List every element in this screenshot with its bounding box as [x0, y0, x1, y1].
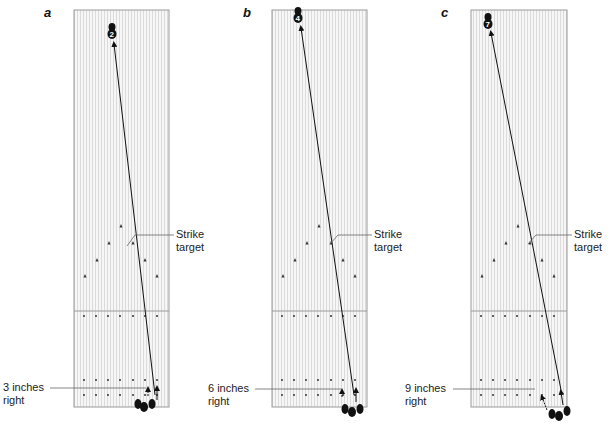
strike-target-label-a-2: target [176, 241, 204, 253]
strike-target-label-b: Strike [374, 228, 402, 240]
bowling-lane-diagram: a 2 St [0, 0, 612, 425]
pin-number-c: 7 [486, 20, 491, 29]
strike-target-label-b-2: target [374, 241, 402, 253]
offset-label-c-2: right [405, 395, 426, 407]
feet-icon-c [549, 406, 571, 421]
panel-a: a 2 St [3, 5, 204, 412]
panel-letter-c: c [441, 5, 449, 20]
strike-target-label-a: Strike [176, 228, 204, 240]
pin-number-a: 2 [110, 30, 115, 39]
lane-b [272, 10, 367, 407]
pin-icon-b: 4 [294, 7, 303, 23]
pin-number-b: 4 [296, 14, 301, 23]
panel-letter-a: a [44, 5, 51, 20]
pin-icon-c: 7 [484, 13, 493, 29]
strike-target-label-c-2: target [574, 241, 602, 253]
lane-a [74, 10, 169, 407]
strike-target-label-c: Strike [574, 228, 602, 240]
pin-icon-a: 2 [108, 23, 117, 39]
offset-label-b: 6 inches [208, 382, 249, 394]
panel-b: b 4 Strike target 6 inc [208, 5, 402, 417]
offset-label-b-2: right [208, 395, 229, 407]
panel-c: c 7 Strike target 9 inc [405, 5, 602, 421]
offset-label-a: 3 inches [3, 381, 44, 393]
offset-label-c: 9 inches [405, 382, 446, 394]
panel-letter-b: b [243, 5, 251, 20]
offset-label-a-2: right [3, 394, 24, 406]
